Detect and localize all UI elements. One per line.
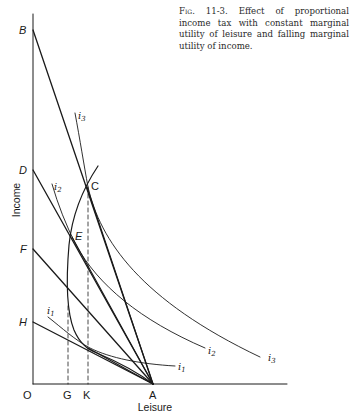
point-label-D: D (19, 164, 27, 176)
diagram: B D F H C E O G K A Leisure Income i3 i2… (0, 0, 352, 413)
label-sub: 1 (181, 366, 185, 374)
indifference-curve-i1 (48, 317, 175, 366)
curve-label-i1: i1 (178, 361, 186, 374)
label-sub: 3 (81, 115, 86, 123)
origin-label: O (23, 389, 32, 401)
curve-label-i2: i2 (208, 345, 216, 358)
curve-label-i2-top: i2 (54, 181, 62, 194)
y-axis-title: Income (10, 183, 22, 218)
label-sub: 2 (210, 350, 216, 358)
label-sub: 2 (56, 186, 62, 194)
point-label-E: E (75, 230, 83, 242)
point-label-G: G (63, 389, 72, 401)
point-label-K: K (83, 389, 91, 401)
curve-label-i1-top: i1 (47, 305, 55, 318)
point-label-B: B (19, 24, 26, 36)
point-label-H: H (19, 316, 27, 328)
point-label-A: A (149, 389, 157, 401)
point-label-F: F (20, 243, 28, 255)
point-label-C: C (91, 180, 99, 192)
equilibrium-locus-curve (67, 166, 153, 384)
label-sub: 1 (50, 310, 54, 318)
x-axis-title: Leisure (138, 401, 173, 413)
curve-label-i3-top: i3 (78, 110, 86, 123)
indifference-curve-i2 (52, 184, 205, 348)
curve-label-i3: i3 (268, 352, 276, 365)
label-sub: 3 (271, 357, 276, 365)
